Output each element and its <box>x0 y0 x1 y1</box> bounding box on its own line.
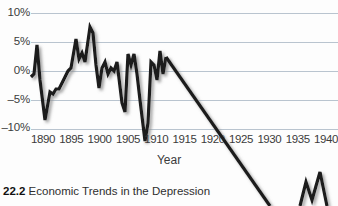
x-tick-label-1935: 1935 <box>286 133 310 146</box>
x-tick-label-1930: 1930 <box>257 133 281 146</box>
x-tick-label-1915: 1915 <box>172 133 196 146</box>
y-tick-label-10: 10% <box>2 6 30 18</box>
x-tick-label-1890: 1890 <box>31 133 55 146</box>
x-tick-label-1900: 1900 <box>88 133 112 146</box>
figure-caption: 22.2 Economic Trends in the Depression <box>3 185 210 197</box>
y-tick-label-m5: –5% <box>0 93 30 105</box>
x-tick-label-1940: 1940 <box>314 133 338 146</box>
chart-plot-area: 10% 5% 0% –5% –10% 1890 1895 1900 1905 1… <box>0 0 338 150</box>
figure-container: 10% 5% 0% –5% –10% 1890 1895 1900 1905 1… <box>0 0 338 206</box>
y-tick-label-m10: –10% <box>0 121 30 133</box>
figure-caption-text: Economic Trends in the Depression <box>29 185 211 197</box>
data-series-annual-change <box>31 27 166 141</box>
series-line <box>31 27 166 141</box>
y-tick-label-5: 5% <box>2 35 30 47</box>
x-tick-label-1895: 1895 <box>59 133 83 146</box>
figure-caption-number: 22.2 <box>3 185 25 197</box>
x-tick-label-1910: 1910 <box>144 133 168 146</box>
x-tick-label-1905: 1905 <box>116 133 140 146</box>
gridlines <box>31 13 338 129</box>
line-chart-svg <box>0 0 338 150</box>
x-tick-label-1920: 1920 <box>201 133 225 146</box>
y-tick-label-0: 0% <box>2 64 30 76</box>
series-tail-fragment <box>300 172 327 206</box>
x-axis-title: Year <box>0 153 338 167</box>
x-tick-label-1925: 1925 <box>229 133 253 146</box>
x-axis-tick-labels: 1890 1895 1900 1905 1910 1915 1920 1925 … <box>31 133 338 147</box>
